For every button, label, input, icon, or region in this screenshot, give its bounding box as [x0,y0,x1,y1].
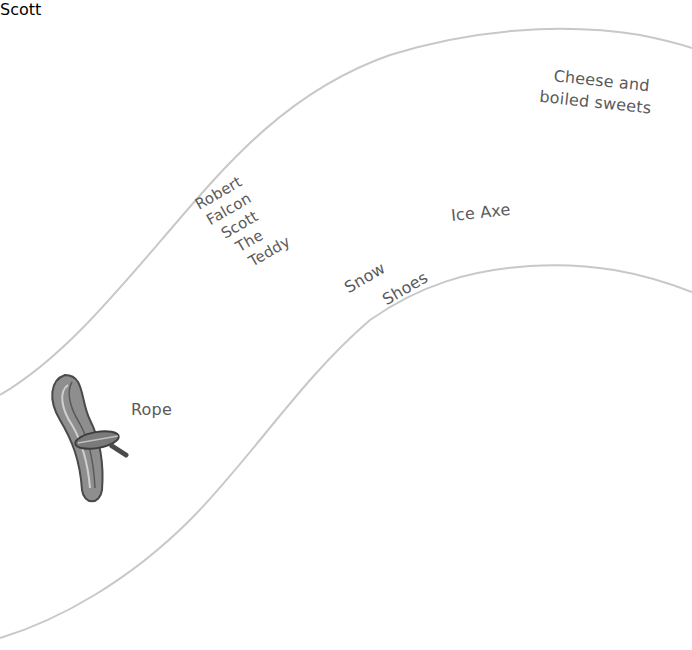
path-lower-edge [0,265,692,638]
rope-icon [52,375,126,501]
rope-label: Rope [131,402,172,418]
